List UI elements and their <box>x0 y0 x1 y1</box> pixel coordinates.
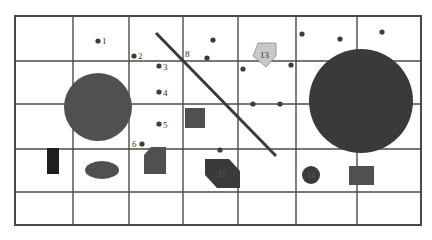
point <box>210 37 215 42</box>
ellipse-9-label: 9 <box>100 166 104 175</box>
point <box>379 29 384 34</box>
point-6 <box>139 141 144 146</box>
point <box>277 101 282 106</box>
point-1 <box>95 38 100 43</box>
point-label-4: 4 <box>163 88 168 98</box>
pentagon-10-label: 10 <box>150 158 158 167</box>
point <box>240 66 245 71</box>
point <box>299 31 304 36</box>
point-5 <box>156 121 161 126</box>
circle-7-label: 7 <box>96 103 100 112</box>
point-label-6: 6 <box>132 139 137 149</box>
point-3 <box>156 63 161 68</box>
point <box>250 101 255 106</box>
point-label-3: 3 <box>163 62 168 72</box>
diagram-canvas: 7 9 10 12 11 13 14 15 8 123456 <box>0 0 432 240</box>
square-15-label: 15 <box>357 172 365 181</box>
hexagon-11-label: 11 <box>218 170 226 179</box>
point-4 <box>156 89 161 94</box>
point <box>337 36 342 41</box>
point-label-2: 2 <box>138 51 143 61</box>
shapes-layer: 7 9 10 12 11 13 14 15 8 <box>47 33 413 188</box>
point-2 <box>131 53 136 58</box>
line-8-label: 8 <box>185 49 190 59</box>
circle-14-label: 14 <box>307 171 315 180</box>
point <box>288 62 293 67</box>
pentagon-13-label: 13 <box>260 50 270 60</box>
point <box>204 55 209 60</box>
point <box>217 147 222 152</box>
square-12-label: 12 <box>190 114 198 123</box>
black-rectangle <box>47 148 59 174</box>
big-dark-circle <box>309 49 413 153</box>
point-label-1: 1 <box>102 36 107 46</box>
point-label-5: 5 <box>163 120 168 130</box>
